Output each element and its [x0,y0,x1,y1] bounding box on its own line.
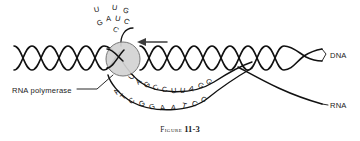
rna-product-strand [238,67,322,104]
arrow-head-icon [137,38,146,46]
polymerase-disc[interactable] [106,42,140,76]
rna-strand-path [238,67,322,104]
rna-transcript-base-5: U [171,87,177,95]
figure-caption-number: 11-3 [184,124,200,134]
dna-template-base-5: A [160,104,166,112]
rna-polymerase-label: RNA polymerase [12,86,72,95]
rna-tail-base-1: U [112,4,118,12]
polymerase-leader-line [77,75,113,89]
figure-caption-word: Figure [160,125,182,134]
dna-template-base-6: A [171,104,176,112]
dna-leader-line [322,49,326,61]
dna-strand-a-left [14,46,120,70]
transcription-direction-arrow [137,38,167,46]
dna-strand-b-right [140,46,322,70]
diagram-canvas [0,0,360,141]
dna-helix-right [140,46,322,70]
rna-polymerase-bubble[interactable] [106,42,140,76]
rna-transcript-base-6: U [180,87,186,95]
figure-transcription-diagram: UUGGAUCC UAGCCUUAGG ATCGGAATCC DNA RNA R… [0,0,360,141]
rna-leader-line [322,104,328,105]
figure-caption: Figure 11-3 [0,124,360,134]
rna-label: RNA [330,101,347,110]
dna-label: DNA [330,51,347,60]
dna-template-base-4: G [148,102,155,111]
rna-tail-base-4: A [106,15,111,23]
